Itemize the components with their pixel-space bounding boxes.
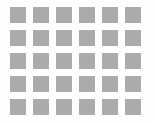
grid-cell-r1-c1[interactable] [10, 7, 26, 23]
grid-cell-r1-c3[interactable] [56, 7, 72, 23]
grid-cell-r1-c4[interactable] [79, 7, 95, 23]
grid-cell-r2-c3[interactable] [56, 30, 72, 46]
grid-cell-r3-c3[interactable] [56, 53, 72, 69]
grid-row-2 [10, 30, 141, 46]
grid-cell-r1-c5[interactable] [102, 7, 118, 23]
grid-cell-r4-c5[interactable] [102, 76, 118, 92]
grid-cell-r2-c5[interactable] [102, 30, 118, 46]
grid-cell-r2-c6[interactable] [125, 30, 141, 46]
grid-cell-r3-c5[interactable] [102, 53, 118, 69]
grid-cell-r2-c1[interactable] [10, 30, 26, 46]
grid-row-4 [10, 76, 141, 92]
grid-canvas [0, 0, 155, 124]
square-grid [10, 7, 141, 115]
grid-cell-r4-c2[interactable] [33, 76, 49, 92]
grid-row-1 [10, 7, 141, 23]
grid-cell-r3-c1[interactable] [10, 53, 26, 69]
grid-cell-r3-c2[interactable] [33, 53, 49, 69]
grid-cell-r5-c3[interactable] [56, 99, 72, 115]
grid-cell-r3-c6[interactable] [125, 53, 141, 69]
grid-cell-r2-c2[interactable] [33, 30, 49, 46]
grid-cell-r4-c3[interactable] [56, 76, 72, 92]
grid-cell-r5-c1[interactable] [10, 99, 26, 115]
grid-cell-r5-c6[interactable] [125, 99, 141, 115]
grid-cell-r4-c1[interactable] [10, 76, 26, 92]
grid-row-3 [10, 53, 141, 69]
grid-row-5 [10, 99, 141, 115]
grid-cell-r1-c6[interactable] [125, 7, 141, 23]
grid-cell-r2-c4[interactable] [79, 30, 95, 46]
grid-cell-r4-c4[interactable] [79, 76, 95, 92]
grid-cell-r5-c5[interactable] [102, 99, 118, 115]
grid-cell-r4-c6[interactable] [125, 76, 141, 92]
grid-cell-r3-c4[interactable] [79, 53, 95, 69]
grid-cell-r5-c4[interactable] [79, 99, 95, 115]
grid-cell-r1-c2[interactable] [33, 7, 49, 23]
grid-cell-r5-c2[interactable] [33, 99, 49, 115]
